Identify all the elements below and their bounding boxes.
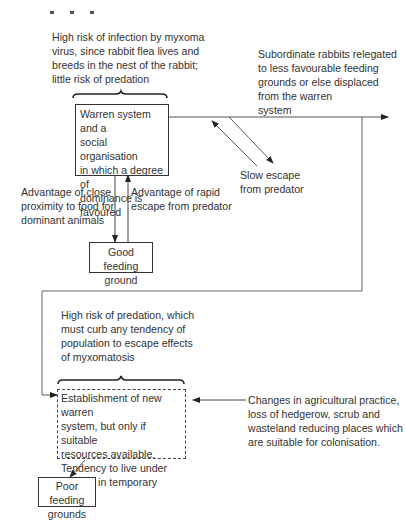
brace-top (73, 91, 167, 98)
warren-system-box: Warren system and a social organisation … (75, 104, 169, 176)
infection-risk-note: High risk of infection by myxoma virus, … (52, 30, 205, 86)
agricultural-changes-note: Changes in agricultural practice, loss o… (248, 393, 403, 449)
rapid-escape-label: Advantage of rapid escape from predator (131, 185, 232, 213)
good-feeding-ground-box: Good feeding ground (89, 242, 153, 273)
poor-feeding-grounds-box: Poor feeding grounds (38, 477, 96, 507)
slow-escape-label: Slow escape from predator (240, 168, 304, 196)
new-warren-box: Establishment of new warren system, but … (57, 389, 186, 459)
subordinate-rabbits-note: Subordinate rabbits relegated to less fa… (258, 47, 397, 117)
brace-bottom (58, 376, 184, 384)
predation-risk-note: High risk of predation, which must curb … (61, 308, 194, 364)
close-proximity-label: Advantage of close proximity to food for… (21, 185, 114, 227)
